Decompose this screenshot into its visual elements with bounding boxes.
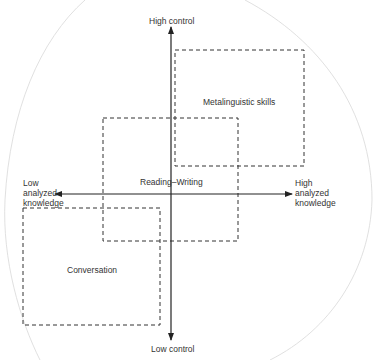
axis-label-high-control: High control <box>149 16 194 26</box>
label-line: analyzed <box>295 188 329 198</box>
label-line: analyzed <box>23 188 57 198</box>
region-label-conversation: Conversation <box>67 265 117 275</box>
region-box-metalinguistic <box>175 50 304 166</box>
region-label-metalinguistic: Metalinguistic skills <box>203 97 275 107</box>
label-line: High <box>295 178 312 188</box>
label-line: Low <box>23 178 39 188</box>
region-label-reading-writing: Reading–Writing <box>140 177 203 187</box>
label-line: knowledge <box>295 198 336 208</box>
label-line: knowledge <box>23 198 64 208</box>
axis-label-low-control: Low control <box>151 344 194 354</box>
